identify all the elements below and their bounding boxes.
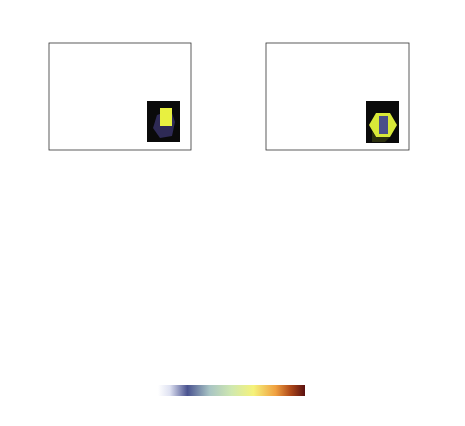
efficiency-phase-chart-b: [266, 43, 409, 150]
inset-image-a: [147, 101, 180, 142]
colorbar-gradient: [158, 385, 305, 396]
inset-image-b: [366, 101, 399, 143]
efficiency-phase-chart-a: [49, 43, 191, 150]
colorbar: [158, 385, 305, 396]
figure: [0, 0, 465, 426]
